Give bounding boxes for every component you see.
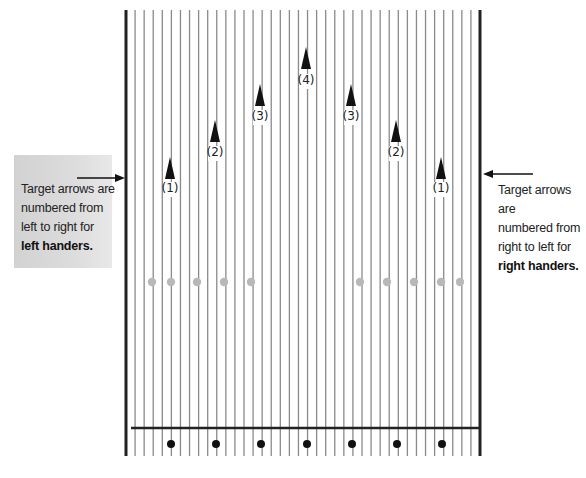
left-handers-note: Target arrows are numbered from left to … [21, 180, 115, 256]
approach-dot [438, 440, 446, 448]
approach-dot [303, 440, 311, 448]
right-pointer-arrow-icon [483, 170, 493, 178]
right-handers-note: Target arrows are numbered from right to… [498, 181, 586, 276]
approach-dot [212, 440, 220, 448]
range-finder-dot [383, 278, 391, 286]
target-arrow-label: (2) [207, 145, 224, 159]
range-finder-dot [167, 278, 175, 286]
target-arrow-label: (2) [388, 145, 405, 159]
target-arrow-icon [391, 120, 401, 142]
target-arrow-icon [436, 157, 446, 179]
target-arrow-icon [165, 157, 175, 179]
target-arrow-label: (1) [433, 181, 450, 195]
approach-dot [167, 440, 175, 448]
range-finder-dot [456, 278, 464, 286]
left-note-line-1: Target arrows are [21, 180, 115, 199]
target-arrow-label: (3) [343, 109, 360, 123]
range-finder-dot [148, 278, 156, 286]
approach-dot [257, 440, 265, 448]
approach-dot [348, 440, 356, 448]
right-note-line-4: right handers. [498, 257, 586, 276]
left-note-line-3: left to right for [21, 218, 115, 237]
target-arrow-icon [301, 47, 311, 69]
target-arrow-icon [346, 84, 356, 106]
left-pointer-arrow-icon [115, 174, 125, 182]
range-finder-dot [410, 278, 418, 286]
right-note-line-1: Target arrows are [498, 181, 586, 219]
range-finder-dot [193, 278, 201, 286]
right-note-line-3: right to left for [498, 238, 586, 257]
approach-dot [393, 440, 401, 448]
left-note-line-4: left handers. [21, 237, 115, 256]
range-finder-dot [437, 278, 445, 286]
left-note-line-2: numbered from [21, 199, 115, 218]
range-finder-dot [356, 278, 364, 286]
right-note-line-2: numbered from [498, 219, 586, 238]
target-arrow-label: (1) [162, 181, 179, 195]
target-arrow-label: (4) [298, 73, 315, 87]
target-arrow-label: (3) [252, 109, 269, 123]
target-arrow-icon [210, 120, 220, 142]
range-finder-dot [220, 278, 228, 286]
target-arrow-icon [255, 84, 265, 106]
range-finder-dot [247, 278, 255, 286]
